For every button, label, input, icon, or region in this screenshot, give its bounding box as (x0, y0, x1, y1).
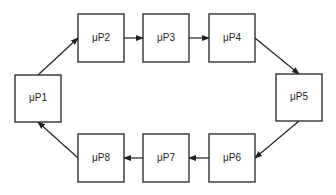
node-p6: μP6 (209, 134, 255, 182)
node-p1: μP1 (15, 75, 61, 122)
arrow-p4-to-p5 (255, 38, 299, 74)
arrow-p8-to-p1 (38, 122, 78, 158)
node-p8: μP8 (78, 134, 124, 182)
node-p4: μP4 (209, 14, 255, 62)
ring-diagram: μP1μP2μP3μP4μP5μP6μP7μP8 (0, 0, 336, 195)
node-label: μP3 (157, 32, 175, 43)
node-p3: μP3 (143, 14, 189, 62)
node-label: μP4 (223, 32, 241, 43)
node-label: μP1 (29, 92, 47, 103)
node-p7: μP7 (143, 134, 189, 182)
node-p5: μP5 (276, 74, 322, 121)
arrow-p5-to-p6 (255, 121, 299, 158)
arrow-p1-to-p2 (38, 38, 78, 75)
node-label: μP6 (223, 152, 241, 163)
nodes-group: μP1μP2μP3μP4μP5μP6μP7μP8 (15, 14, 322, 182)
node-label: μP5 (290, 91, 308, 102)
node-label: μP2 (92, 32, 110, 43)
node-label: μP7 (157, 152, 175, 163)
node-label: μP8 (92, 152, 110, 163)
node-p2: μP2 (78, 14, 124, 62)
